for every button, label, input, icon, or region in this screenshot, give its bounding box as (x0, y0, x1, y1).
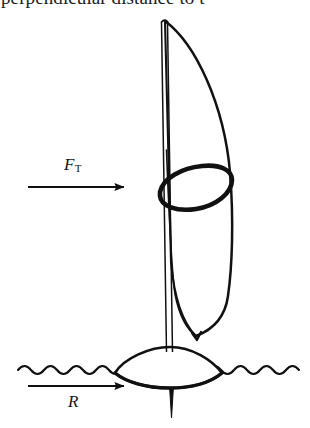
hull (115, 347, 222, 388)
figure-root: perpendicular distance to t (0, 0, 310, 428)
resistance-force-label: R (68, 392, 78, 412)
sail (165, 21, 232, 340)
thrust-force-label: FT (64, 155, 82, 175)
resistance-force-symbol: R (68, 392, 78, 411)
sailboat-diagram (0, 0, 310, 428)
thrust-force-symbol: F (64, 155, 74, 174)
thrust-force-subscript: T (74, 162, 81, 174)
